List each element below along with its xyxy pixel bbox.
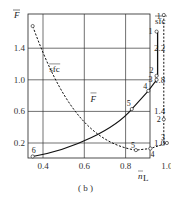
point-label-sfc: 1 [157, 12, 161, 21]
y-left-axis-label: F [13, 10, 20, 20]
x-tick-label: 0.6 [79, 161, 91, 171]
y-left-tick-label: 1.4 [14, 43, 26, 53]
data-point-sfc [162, 13, 165, 16]
x-tick-label: 1.0 [161, 161, 171, 171]
point-label-sfc: 2 [157, 115, 161, 124]
y-left-tick-label: 1.0 [14, 75, 26, 85]
point-label-sfc: 4 [150, 150, 154, 159]
chart: 0.40.60.81.00.20.61.01.41.01.41.82.2Fsfc… [0, 0, 171, 201]
data-point-F [155, 78, 158, 81]
point-label-F: 3 [149, 75, 153, 84]
data-point-sfc [165, 141, 168, 144]
point-label-F: 4 [143, 82, 147, 91]
x-tick-label: 0.4 [37, 161, 49, 171]
y-left-tick-label: 0.6 [14, 106, 26, 116]
curve-label-F: F [89, 94, 96, 104]
plot-frame [28, 14, 150, 158]
point-label-F: 2 [150, 66, 154, 75]
data-point-sfc [162, 118, 165, 121]
point-label-sfc: 5 [131, 141, 135, 150]
point-label-sfc: 3 [161, 133, 165, 142]
y-left-tick-label: 0.2 [14, 138, 25, 148]
data-point-sfc [31, 24, 34, 27]
point-label-F: 5 [127, 99, 131, 108]
figure-caption: ( b ) [0, 183, 171, 193]
x-axis-label-sub: L [143, 173, 149, 183]
data-point-F [155, 30, 158, 33]
x-tick-label: 0.8 [120, 161, 132, 171]
curve-F [33, 80, 157, 157]
point-label-F: 6 [32, 146, 36, 155]
point-label-F: 1 [149, 27, 153, 36]
data-point-F [155, 74, 158, 77]
curve-label-sfc: sfc [49, 64, 60, 74]
